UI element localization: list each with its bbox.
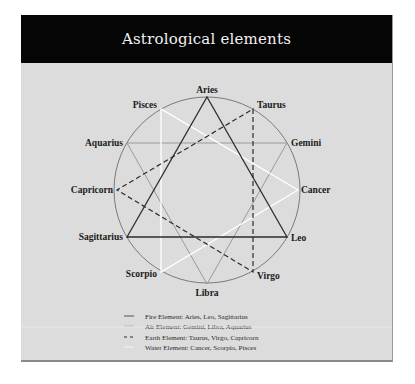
fire-triangle [127,97,287,237]
label-leo: Leo [291,233,307,243]
legend-water: Water Element: Cancer, Scorpio, Pisces [145,344,256,352]
label-libra: Libra [195,288,218,298]
earth-triangle [117,109,253,272]
label-capricorn: Capricorn [71,185,114,195]
label-scorpio: Scorpio [126,269,157,279]
legend-air: Air Element: Gemini, Libra, Aquarius [145,323,252,331]
element-diagram: Aries Taurus Gemini Cancer Leo Virgo Lib… [0,0,415,384]
legend: Fire Element: Aries, Leo, Sagittarius Ai… [124,313,259,352]
legend-earth: Earth Element: Taurus, Virgo, Capricorn [145,334,259,342]
label-sagittarius: Sagittarius [79,232,124,242]
label-virgo: Virgo [257,271,280,281]
air-triangle [127,143,287,284]
label-gemini: Gemini [291,138,321,148]
label-aries: Aries [196,85,218,95]
label-pisces: Pisces [133,100,158,110]
zodiac-circle [114,97,300,283]
label-aquarius: Aquarius [85,138,123,148]
legend-fire: Fire Element: Aries, Leo, Sagittarius [145,313,248,321]
water-triangle [161,109,298,272]
label-cancer: Cancer [301,185,331,195]
label-taurus: Taurus [257,100,286,110]
